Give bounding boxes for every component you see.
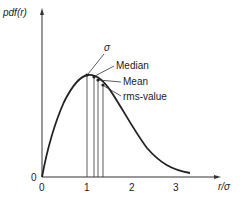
sigma-label: σ: [104, 42, 111, 53]
sigma-leader: [88, 54, 104, 74]
x-tick-2: 2: [129, 182, 135, 193]
x-tick-3: 3: [173, 182, 179, 193]
y-axis-arrow-icon: [40, 8, 44, 15]
y-tick-0: 0: [31, 172, 37, 183]
x-axis-label: r/σ: [218, 181, 231, 192]
pdf-curve: [42, 75, 190, 177]
median-label: Median: [116, 60, 149, 71]
median-leader: [95, 66, 114, 76]
x-tick-1: 1: [84, 182, 90, 193]
x-axis-arrow-icon: [214, 175, 221, 179]
x-tick-0: 0: [39, 182, 45, 193]
y-axis-label: pdf(r): [2, 7, 27, 18]
rms-label: rms-value: [123, 91, 167, 102]
mean-label: Mean: [123, 76, 148, 87]
rayleigh-pdf-chart: σ Median Mean rms-value pdf(r) r/σ 0 0 1…: [0, 0, 244, 202]
